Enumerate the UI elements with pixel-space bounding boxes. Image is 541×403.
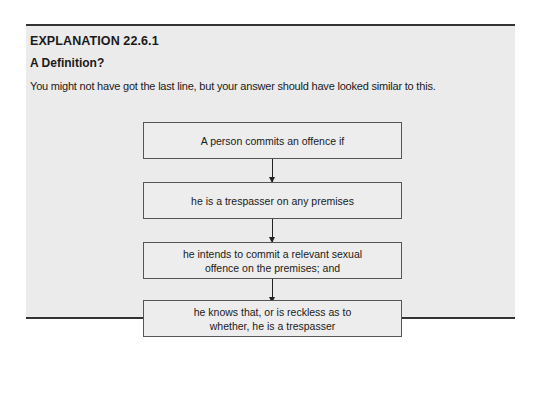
intro-text: You might not have got the last line, bu…	[30, 80, 436, 92]
arrow-down-icon	[272, 159, 273, 182]
explanation-title: A Definition?	[30, 56, 104, 70]
flow-step-4: he knows that, or is reckless as to whet…	[143, 300, 402, 337]
flow-step-3: he intends to commit a relevant sexual o…	[143, 242, 402, 279]
flow-step-2: he is a trespasser on any premises	[143, 182, 402, 219]
flow-step-1: A person commits an offence if	[143, 122, 402, 159]
arrow-down-icon	[272, 219, 273, 242]
explanation-label: EXPLANATION 22.6.1	[30, 34, 159, 48]
explanation-panel: EXPLANATION 22.6.1 A Definition? You mig…	[26, 24, 515, 319]
arrow-down-icon	[272, 279, 273, 302]
